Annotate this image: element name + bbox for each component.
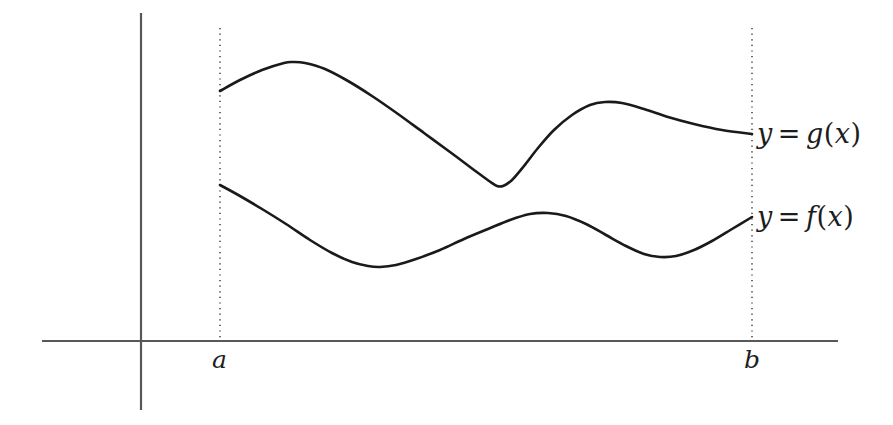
label-f-y: y: [757, 201, 773, 232]
label-g-equals: =: [778, 118, 801, 149]
curve-label-f: y=f(x): [757, 203, 854, 230]
x-tick-label-b: b: [744, 347, 760, 372]
x-tick-label-a: a: [212, 347, 227, 372]
label-g-y: y: [757, 118, 773, 149]
curve-f-of-x: [220, 185, 752, 267]
label-f-open-paren: (: [816, 201, 827, 232]
label-f-argument: x: [827, 201, 843, 232]
area-between-curves-figure: y=g(x) y=f(x) a b: [0, 0, 893, 425]
label-f-close-paren: ): [843, 201, 854, 232]
label-f-equals: =: [778, 201, 801, 232]
curve-g-of-x: [220, 62, 752, 187]
label-g-function: g: [806, 118, 824, 149]
label-f-function: f: [806, 201, 817, 232]
curve-label-g: y=g(x): [757, 120, 862, 147]
label-g-open-paren: (: [824, 118, 835, 149]
label-g-argument: x: [835, 118, 851, 149]
label-g-close-paren: ): [850, 118, 861, 149]
